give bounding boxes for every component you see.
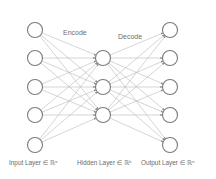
neuron-nodes (28, 23, 178, 153)
connection-edge (109, 92, 165, 140)
hidden-node-2 (96, 80, 111, 95)
connection-edge (108, 36, 166, 109)
hidden-node-1 (96, 51, 111, 66)
input-node-4 (28, 108, 43, 123)
output-layer-label: Output Layer ∈ ℝⁿ (141, 159, 194, 167)
encode-label: Encode (63, 29, 87, 36)
connection-edge (42, 33, 96, 55)
input-layer-label: Input Layer ∈ ℝⁿ (9, 159, 58, 167)
hidden-layer-label: Hidden Layer ∈ ℝᵏ (77, 159, 132, 167)
connection-edge (41, 35, 98, 82)
output-node-4 (163, 108, 178, 123)
input-node-5 (28, 138, 43, 153)
connection-edge (40, 64, 99, 139)
decode-label: Decode (118, 33, 142, 40)
connection-edge (110, 118, 163, 142)
hidden-node-3 (96, 108, 111, 123)
autoencoder-diagram: Encode Decode Input Layer ∈ ℝⁿ Hidden La… (0, 0, 216, 179)
input-node-2 (28, 51, 43, 66)
connection-edge (109, 35, 165, 82)
connection-edge (41, 92, 98, 140)
output-node-2 (163, 51, 178, 66)
connection-edge (108, 64, 166, 139)
output-node-1 (163, 23, 178, 38)
output-node-5 (163, 138, 178, 153)
input-node-1 (28, 23, 43, 38)
output-node-3 (163, 80, 178, 95)
connection-edge (42, 118, 96, 142)
input-node-3 (28, 80, 43, 95)
